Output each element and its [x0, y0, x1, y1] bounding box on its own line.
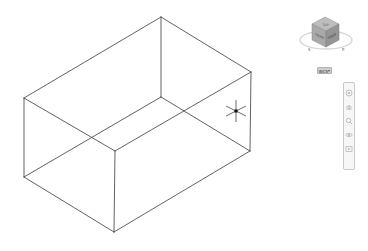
- wcs-menu-button[interactable]: WCS: [317, 67, 332, 74]
- edge-vertical-front: [114, 151, 115, 232]
- chevron-down-icon: [328, 70, 330, 72]
- zoom-magnifier-icon: [345, 117, 353, 125]
- crosshair-cursor-icon: [224, 99, 248, 123]
- wcs-label: WCS: [319, 69, 328, 74]
- edge-bottom-back-left: [24, 97, 161, 177]
- orbit-icon: [345, 131, 353, 139]
- showmotion-button[interactable]: [345, 145, 353, 153]
- edge-bottom-front-right: [114, 151, 250, 232]
- pan-hand-icon: [345, 103, 353, 111]
- viewcube-label-top: TOP: [321, 23, 328, 27]
- edge-top-front-left: [24, 98, 115, 151]
- edge-vertical-right: [250, 72, 251, 151]
- navigation-bar[interactable]: [343, 82, 355, 170]
- steering-wheel-icon: [345, 89, 353, 97]
- zoom-button[interactable]: [345, 117, 353, 125]
- edge-bottom-front-left: [24, 177, 114, 232]
- edge-top-back-left: [24, 17, 161, 98]
- pan-button[interactable]: [345, 103, 353, 111]
- steering-wheel-button[interactable]: [345, 89, 353, 97]
- compass-label-east[interactable]: E: [342, 47, 345, 52]
- edge-top-back-right: [161, 17, 251, 72]
- viewcube[interactable]: TOP FRONT RIGHT S E: [296, 10, 356, 60]
- showmotion-icon: [345, 145, 353, 153]
- orbit-button[interactable]: [345, 131, 353, 139]
- viewcube-graphic[interactable]: TOP FRONT RIGHT S E: [296, 10, 356, 60]
